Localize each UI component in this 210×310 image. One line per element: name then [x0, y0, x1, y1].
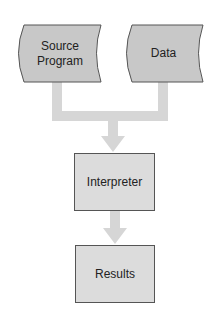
interpreter-flow-diagram: Source Program Data Interpreter Results: [0, 0, 210, 310]
interpreter-label: Interpreter: [87, 175, 142, 190]
results-label: Results: [95, 267, 135, 282]
interpreter-node: Interpreter: [74, 153, 155, 211]
results-node: Results: [75, 245, 155, 303]
source-program-label-line1: Source: [37, 39, 83, 54]
arrow-interpreter-to-results: [103, 211, 127, 244]
data-node: Data: [126, 25, 201, 82]
source-program-node: Source Program: [20, 25, 100, 82]
data-label: Data: [151, 46, 176, 61]
source-program-label-line2: Program: [37, 54, 83, 69]
merge-connector: [52, 80, 168, 152]
